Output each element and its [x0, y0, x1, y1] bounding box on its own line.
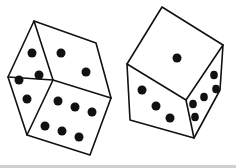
left-die-top-pips — [57, 49, 91, 77]
right-die — [127, 7, 223, 138]
left-die — [8, 21, 111, 155]
right-die-top-pips — [173, 54, 182, 63]
left-die-left-pips — [15, 49, 44, 104]
left-die-front-pips — [41, 97, 97, 142]
bottom-edge-strip — [0, 165, 236, 168]
right-die-front-pips — [138, 86, 175, 123]
dice-drawing — [0, 0, 236, 168]
right-die-right-pips — [189, 71, 220, 122]
